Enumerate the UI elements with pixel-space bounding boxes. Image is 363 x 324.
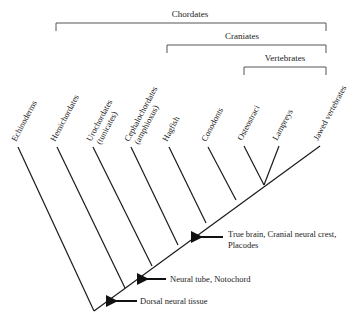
- branch-osteostraci: [244, 146, 264, 185]
- clade-bracket-craniates: Craniates: [167, 31, 326, 53]
- clade-brackets: ChordatesCraniatesVertebrates: [56, 9, 326, 75]
- taxon-label-hagfish: Hagfish: [160, 114, 182, 143]
- bracket-line: [56, 23, 326, 31]
- branch-cephalochordates: [131, 147, 178, 245]
- character-annotations: Dorsal neural tissueNeural tube, Notocho…: [116, 229, 336, 306]
- clade-bracket-chordates: Chordates: [56, 9, 326, 31]
- taxon-label-jawed-vertebrates: Jawed vertebrates: [311, 84, 348, 142]
- cladogram: ChordatesCraniatesVertebrates Echinoderm…: [0, 0, 363, 324]
- taxon-label-echinoderms: Echinoderms: [9, 99, 39, 143]
- taxon-name: Jawed vertebrates: [311, 84, 348, 142]
- branch-hagfish: [169, 147, 206, 223]
- branch-urochordates: [93, 147, 152, 266]
- character-annotation: True brain, Cranial neural crest,Placode…: [201, 229, 336, 250]
- taxon-name: Echinoderms: [9, 99, 39, 143]
- taxon-label-lampreys: Lampreys: [270, 107, 295, 142]
- taxa-labels: EchinodermsHemichordatesUrochordates(tun…: [9, 84, 348, 148]
- branch-lampreys: [264, 146, 279, 185]
- branch-hemichordates: [57, 147, 125, 288]
- taxon-name: Lampreys: [270, 107, 295, 142]
- taxon-label-urochordates: Urochordates(tunicates): [84, 98, 123, 148]
- branch-echinoderms: [18, 147, 94, 311]
- taxon-name: Hagfish: [160, 114, 182, 143]
- bracket-line: [244, 67, 326, 75]
- clade-bracket-vertebrates: Vertebrates: [244, 53, 326, 75]
- clade-label: Chordates: [172, 9, 209, 19]
- character-text: Dorsal neural tissue: [140, 296, 208, 306]
- character-text: True brain, Cranial neural crest,: [228, 229, 336, 239]
- character-text: Neural tube, Notochord: [170, 274, 251, 284]
- taxon-label-osteostraci: Osteostraci: [235, 103, 262, 142]
- clade-label: Craniates: [225, 31, 259, 41]
- taxon-name: Hemichordates: [48, 93, 81, 143]
- branch-conodonts: [208, 147, 236, 200]
- character-text: Placodes: [228, 240, 258, 250]
- clade-label: Vertebrates: [265, 53, 306, 63]
- taxon-label-hemichordates: Hemichordates: [48, 93, 81, 143]
- taxon-label-conodonts: Conodonts: [199, 106, 225, 143]
- character-annotation: Dorsal neural tissue: [116, 296, 208, 306]
- taxon-name: Conodonts: [199, 106, 225, 143]
- taxon-name: Osteostraci: [235, 103, 262, 142]
- bracket-line: [167, 45, 326, 53]
- character-annotation: Neural tube, Notochord: [147, 274, 251, 284]
